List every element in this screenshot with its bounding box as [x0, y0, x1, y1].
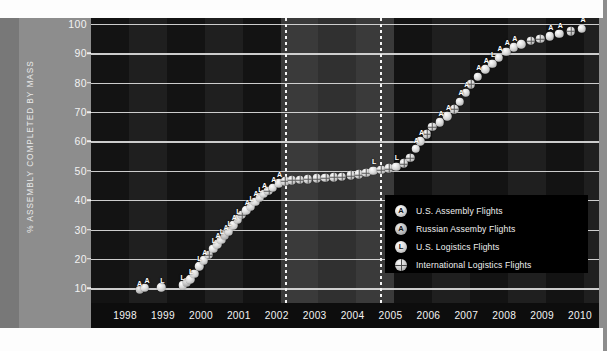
- x-tick-label: 2008: [492, 310, 516, 321]
- x-tick-label: 2010: [568, 310, 592, 321]
- flight-marker-label: L: [395, 154, 399, 161]
- data-point-us-assembly: [436, 118, 445, 127]
- x-axis-strip: 1998199920002001200220032004200520062007…: [91, 303, 599, 328]
- flight-marker-label: A: [476, 64, 481, 71]
- data-point-international-logistics: [406, 153, 415, 162]
- y-tick-label: 100: [68, 18, 87, 30]
- background-band: [91, 18, 129, 303]
- background-band: [129, 18, 167, 303]
- y-tick-label: 10: [75, 282, 87, 294]
- x-tick-label: 2000: [189, 310, 213, 321]
- legend-label: U.S. Logistics Flights: [416, 242, 500, 252]
- y-tick-label: 80: [75, 77, 87, 89]
- x-tick-label: 2005: [379, 310, 403, 321]
- background-band: [318, 18, 356, 303]
- flight-marker-label: A: [458, 89, 463, 96]
- flight-marker-label: L: [181, 274, 185, 281]
- y-tick-label: 90: [75, 47, 87, 59]
- flight-marker-label: L: [372, 158, 376, 165]
- x-tick-label: 2009: [530, 310, 554, 321]
- shuttle-standdown-end-line: [380, 18, 382, 303]
- gridline: [91, 24, 599, 25]
- chart-root: % ASSEMBLY COMPLETED BY MASS 10203040506…: [0, 0, 607, 351]
- flight-marker-label: A: [271, 176, 276, 183]
- x-tick-label: 2007: [454, 310, 478, 321]
- flight-marker-label: A: [145, 277, 150, 284]
- top-white-band: [0, 0, 607, 18]
- chart-legend[interactable]: AU.S. Assembly FlightsARussian Assemby F…: [385, 195, 588, 273]
- left-spine: [0, 18, 19, 328]
- background-band: [243, 18, 281, 303]
- y-tick-label: 40: [75, 194, 87, 206]
- x-tick-label: 1998: [113, 310, 137, 321]
- data-point-international-logistics: [338, 172, 347, 181]
- legend-label: U.S. Assembly Flights: [416, 206, 503, 216]
- y-axis-tick-group: 102030405060708090100: [58, 18, 90, 303]
- legend-marker-icon-us-assembly: A: [395, 205, 407, 217]
- flight-marker-label: A: [202, 249, 207, 256]
- y-axis-title: % ASSEMBLY COMPLETED BY MASS: [26, 37, 35, 257]
- legend-item-international-logistics[interactable]: International Logistics Flights: [395, 255, 531, 274]
- shuttle-standdown-start-line: [285, 18, 287, 303]
- data-point-international-logistics: [312, 174, 321, 183]
- legend-item-russian-assembly[interactable]: ARussian Assemby Flights: [395, 219, 515, 238]
- data-point-us-assembly: [411, 144, 420, 153]
- flight-marker-label: A: [505, 39, 510, 46]
- data-point-international-logistics: [450, 105, 459, 114]
- legend-item-us-logistics[interactable]: LU.S. Logistics Flights: [395, 237, 500, 256]
- flight-marker-label: A: [446, 104, 451, 111]
- data-point-international-logistics: [295, 175, 304, 184]
- flight-marker-label: A: [438, 110, 443, 117]
- legend-marker-icon-russian-assembly: A: [395, 223, 407, 235]
- y-tick-label: 70: [75, 106, 87, 118]
- flight-marker-label: A: [484, 57, 489, 64]
- legend-marker-icon-international-logistics: [395, 259, 407, 271]
- flight-marker-label: L: [197, 255, 201, 262]
- flight-marker-label: A: [414, 137, 419, 144]
- legend-label: International Logistics Flights: [416, 260, 531, 270]
- legend-label: Russian Assemby Flights: [416, 224, 515, 234]
- legend-marker-icon-us-logistics: L: [395, 241, 407, 253]
- data-point-international-logistics: [329, 173, 338, 182]
- data-point-us-logistics: [157, 283, 166, 292]
- x-tick-label: 2003: [303, 310, 327, 321]
- x-tick-label: 1999: [151, 310, 175, 321]
- data-point-international-logistics: [566, 27, 575, 36]
- x-tick-label: 2004: [341, 310, 365, 321]
- flight-marker-label: A: [464, 81, 469, 88]
- data-point-us-assembly: [456, 97, 465, 106]
- data-point-us-assembly: [555, 30, 564, 39]
- flight-marker-label: A: [262, 182, 267, 189]
- data-point-us-assembly: [578, 24, 587, 33]
- flight-marker-label: L: [236, 208, 240, 215]
- flight-marker-label: A: [498, 45, 503, 52]
- data-point-us-assembly: [443, 112, 452, 121]
- data-point-us-logistics: [517, 40, 526, 49]
- flight-marker-label: L: [160, 277, 164, 284]
- flight-marker-label: A: [548, 24, 553, 31]
- flight-marker-label: A: [419, 129, 424, 136]
- gridline: [91, 112, 599, 113]
- data-point-international-logistics: [321, 174, 330, 183]
- right-edge: [603, 0, 607, 351]
- flight-marker-label: A: [137, 280, 142, 287]
- flight-marker-label: A: [512, 35, 517, 42]
- gridline: [91, 141, 599, 142]
- gridline: [91, 53, 599, 54]
- flight-marker-label: L: [491, 51, 495, 58]
- legend-item-us-assembly[interactable]: AU.S. Assembly Flights: [395, 201, 503, 220]
- y-tick-label: 30: [75, 224, 87, 236]
- data-point-international-logistics: [527, 37, 536, 46]
- x-tick-label: 2006: [416, 310, 440, 321]
- x-tick-label: 2002: [265, 310, 289, 321]
- x-tick-label: 2001: [227, 310, 251, 321]
- y-tick-label: 20: [75, 253, 87, 265]
- bottom-white-band: [0, 328, 607, 351]
- gridline: [91, 83, 599, 84]
- flight-marker-label: A: [558, 22, 563, 29]
- background-band: [205, 18, 243, 303]
- y-tick-label: 60: [75, 135, 87, 147]
- data-point-us-assembly: [545, 32, 554, 41]
- flight-marker-label: L: [189, 268, 193, 275]
- flight-marker-label: A: [581, 18, 586, 23]
